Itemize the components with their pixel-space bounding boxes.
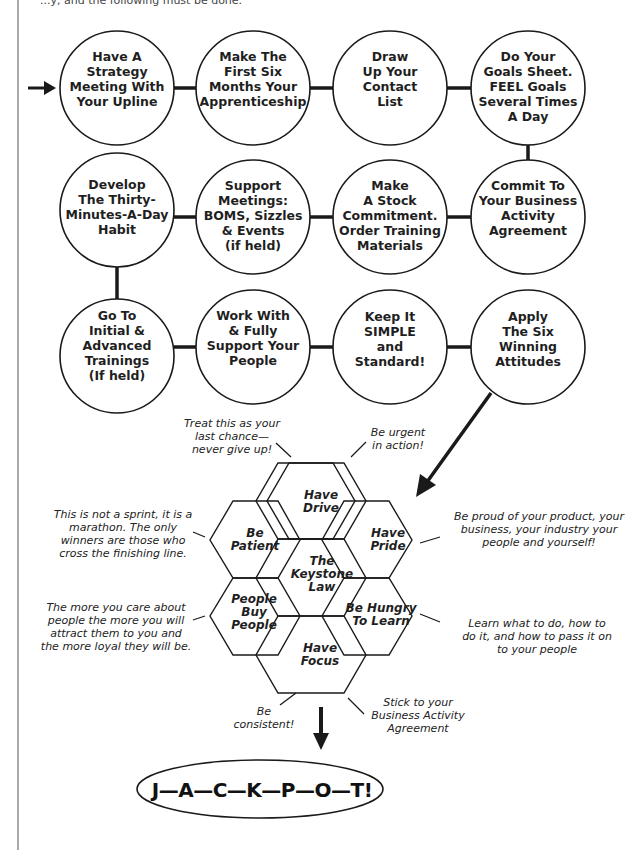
diagonal-arrow-icon	[416, 393, 491, 497]
step-connectors	[117, 88, 528, 347]
down-arrow-icon	[313, 707, 329, 750]
note-proud: Be proud of your product, yourbusiness, …	[454, 510, 626, 549]
note-care: The more you care aboutpeople the more y…	[41, 601, 191, 653]
note-learn: Learn what to do, how todo it, and how t…	[462, 617, 612, 656]
note-last-chance: Treat this as yourlast chance—never give…	[184, 417, 281, 456]
success-flow-diagram: ...y, and the following must be done.	[0, 0, 643, 850]
note-consistent: Beconsistent!	[233, 705, 294, 731]
hex-label-people-buy-people: PeopleBuyPeople	[231, 592, 277, 632]
start-arrow-icon	[28, 81, 56, 95]
hex-label-have-drive: HaveDrive	[303, 488, 339, 515]
hex-label-keystone-law: TheKeystoneLaw	[291, 554, 353, 594]
hex-label-have-focus: HaveFocus	[301, 641, 339, 668]
note-stick: Stick to yourBusiness ActivityAgreement	[371, 696, 465, 735]
note-sprint: This is not a sprint, it is amarathon. T…	[54, 508, 193, 560]
hex-label-be-hungry: Be HungryTo Learn	[346, 601, 418, 628]
jackpot-label: J—A—C—K—P—O—T!	[150, 778, 373, 802]
hex-label-have-pride: HavePride	[370, 526, 405, 553]
header-partial-text: ...y, and the following must be done.	[40, 0, 242, 7]
note-urgent: Be urgentin action!	[371, 426, 426, 452]
